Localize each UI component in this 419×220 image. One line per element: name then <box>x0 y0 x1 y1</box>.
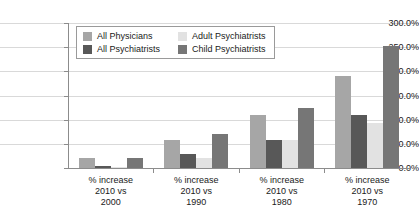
bar-child-psychiatrists-g3 <box>298 108 314 168</box>
legend-item-all-psychiatrists: All Psychiatrists <box>83 44 160 54</box>
bar-all-psychiatrists-g4 <box>351 115 367 168</box>
x-axis-label-line: 2010 vs <box>68 186 154 197</box>
x-axis-label-line: 1990 <box>154 197 240 208</box>
legend-label-all-physicians: All Physicians <box>97 31 153 41</box>
bar-child-psychiatrists-g1 <box>127 158 143 168</box>
legend-swatch-icon-child-psychiatrists <box>178 45 187 54</box>
x-axis-label-2: % increase2010 vs1990 <box>154 175 240 208</box>
bar-all-psychiatrists-g2 <box>180 154 196 168</box>
legend-label-adult-psychiatrists: Adult Psychiatrists <box>192 31 266 41</box>
legend-swatch-icon-all-psychiatrists <box>83 45 92 54</box>
x-axis-label-line: % increase <box>68 175 154 186</box>
x-axis-separator-1 <box>153 168 154 173</box>
x-axis-labels: % increase2010 vs2000% increase2010 vs19… <box>68 175 410 208</box>
bar-adult-psychiatrists-g2 <box>196 158 212 168</box>
bar-all-physicians-g3 <box>250 115 266 168</box>
x-axis-label-line: 2010 vs <box>325 186 411 197</box>
x-axis-separator-2 <box>239 168 240 173</box>
legend-item-all-physicians: All Physicians <box>83 31 160 41</box>
bar-all-physicians-g2 <box>164 140 180 168</box>
bar-child-psychiatrists-g4 <box>383 46 399 168</box>
x-axis-label-line: 2000 <box>68 197 154 208</box>
legend-swatch-icon-all-physicians <box>83 32 92 41</box>
x-axis-separator-3 <box>324 168 325 173</box>
bar-all-psychiatrists-g3 <box>266 140 282 168</box>
x-axis-label-line: 1970 <box>325 197 411 208</box>
bar-all-physicians-g1 <box>79 158 95 168</box>
legend-item-child-psychiatrists: Child Psychiatrists <box>178 44 266 54</box>
x-axis-label-3: % increase2010 vs1980 <box>239 175 325 208</box>
x-axis-label-1: % increase2010 vs2000 <box>68 175 154 208</box>
bar-adult-psychiatrists-g3 <box>282 140 298 168</box>
x-axis-label-line: 2010 vs <box>239 186 325 197</box>
chart-legend: All Physicians Adult Psychiatrists All P… <box>76 26 275 59</box>
bar-all-physicians-g4 <box>335 76 351 168</box>
x-axis-label-line: 2010 vs <box>154 186 240 197</box>
bar-group-4 <box>325 23 411 168</box>
bar-child-psychiatrists-g2 <box>212 134 228 168</box>
x-axis-label-4: % increase2010 vs1970 <box>325 175 411 208</box>
legend-swatch-icon-adult-psychiatrists <box>178 32 187 41</box>
legend-label-all-psychiatrists: All Psychiatrists <box>97 44 160 54</box>
x-axis-label-line: % increase <box>154 175 240 186</box>
x-axis-label-line: % increase <box>325 175 411 186</box>
legend-item-adult-psychiatrists: Adult Psychiatrists <box>178 31 266 41</box>
bar-chart: 300.0% 250.0% 200.0% 150.0% 100.0% 50.0%… <box>0 0 419 220</box>
x-axis-label-line: % increase <box>239 175 325 186</box>
bar-adult-psychiatrists-g4 <box>367 123 383 168</box>
x-axis-label-line: 1980 <box>239 197 325 208</box>
legend-label-child-psychiatrists: Child Psychiatrists <box>192 44 266 54</box>
